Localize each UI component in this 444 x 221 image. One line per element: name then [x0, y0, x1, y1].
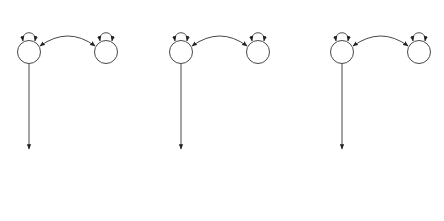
q1-node: Q1	[170, 41, 193, 64]
q2-node: Q2	[247, 41, 270, 64]
q1-variance-loop: 1.00	[336, 33, 348, 41]
q-covariance-arc: 0.00	[353, 36, 408, 46]
q1-variance-loop: 1.00	[175, 33, 187, 41]
q1-node: Q1	[331, 41, 354, 64]
q2-node: Q2	[95, 41, 118, 64]
q2-variance-loop: 1.00	[100, 33, 112, 41]
q2-variance-loop: 1.00	[413, 33, 425, 41]
panel-3: 1.00 1.00 0.00 Q1 Q2 q q 1.00 C1 c 0.75 …	[331, 33, 431, 149]
path-diagrams: 1.00 1.00 1.00 Q1 Q2 q q 1.00 C1 c c Sib…	[0, 0, 444, 221]
q2-node: Q2	[408, 41, 431, 64]
q-covariance-arc: 1.00	[40, 36, 95, 46]
q-covariance-arc: 0.50	[192, 36, 247, 46]
panel-2: 1.00 1.00 0.50 Q1 Q2 q q 1.00 C1 c c Sib…	[170, 33, 270, 149]
panel-1: 1.00 1.00 1.00 Q1 Q2 q q 1.00 C1 c c Sib…	[18, 33, 118, 149]
q2-variance-loop: 1.00	[252, 33, 264, 41]
q1-node: Q1	[18, 41, 41, 64]
q1-variance-loop: 1.00	[23, 33, 35, 41]
